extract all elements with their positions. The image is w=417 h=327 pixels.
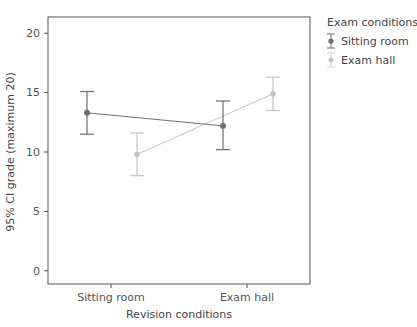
series-exam-hall [130, 77, 280, 176]
point-sitting-room-sitting-room [84, 110, 90, 116]
legend: Exam conditions Sitting room Exam hall [327, 16, 417, 67]
legend-label-exam-hall: Exam hall [341, 54, 395, 67]
x-tick-exam-hall: Exam hall [220, 291, 274, 304]
y-tick-5: 5 [33, 205, 40, 218]
y-tick-20: 20 [26, 27, 40, 40]
legend-label-sitting-room: Sitting room [341, 35, 409, 48]
point-exam-hall-exam-hall [270, 91, 276, 97]
y-tick-15: 15 [26, 86, 40, 99]
point-exam-hall-sitting-room [134, 152, 140, 158]
y-axis: 0 5 10 15 20 [26, 27, 48, 277]
errorbar-marker-icon [327, 53, 335, 67]
plot-frame [48, 17, 310, 284]
chart-canvas: 0 5 10 15 20 95% CI grade (maximum 20) S… [0, 0, 417, 327]
x-axis-title: Revision conditions [126, 308, 232, 321]
y-tick-0: 0 [33, 265, 40, 278]
legend-item-exam-hall: Exam hall [327, 53, 395, 67]
legend-title: Exam conditions [327, 16, 417, 29]
x-tick-sitting-room: Sitting room [77, 291, 145, 304]
point-sitting-room-exam-hall [220, 123, 226, 129]
series-sitting-room [80, 92, 230, 150]
x-axis: Sitting room Exam hall [77, 284, 274, 304]
y-tick-10: 10 [26, 146, 40, 159]
errorbar-marker-icon [327, 34, 335, 48]
legend-item-sitting-room: Sitting room [327, 34, 409, 48]
y-axis-title: 95% CI grade (maximum 20) [4, 72, 17, 231]
